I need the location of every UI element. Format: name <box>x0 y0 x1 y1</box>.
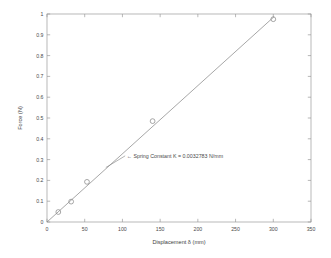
figure-container: 050100150200250300350 00.10.20.30.40.50.… <box>0 0 331 258</box>
spring-constant-chart: 050100150200250300350 00.10.20.30.40.50.… <box>0 0 331 258</box>
y-tick-label: 0.9 <box>36 32 43 38</box>
y-tick-label: 0.4 <box>36 136 43 142</box>
y-tick-label: 0 <box>41 219 44 225</box>
x-tick-label: 350 <box>307 226 316 232</box>
y-tick-label: 0.8 <box>36 53 43 59</box>
x-axis-title: Displacement δ (mm) <box>152 239 205 245</box>
y-axis-title: Force (N) <box>17 106 23 130</box>
y-tick-label: 0.2 <box>36 177 43 183</box>
x-tick-label: 50 <box>82 226 88 232</box>
x-tick-label: 100 <box>118 226 127 232</box>
y-tick-label: 0.5 <box>36 115 43 121</box>
x-tick-label: 300 <box>269 226 278 232</box>
x-tick-label: 0 <box>46 226 49 232</box>
spring-constant-annotation: ← Spring Constant K = 0.0032783 N/mm <box>127 153 224 159</box>
x-tick-label: 150 <box>156 226 165 232</box>
y-tick-label: 0.3 <box>36 157 43 163</box>
y-tick-label: 0.7 <box>36 73 43 79</box>
y-tick-label: 1 <box>41 11 44 17</box>
y-tick-label: 0.6 <box>36 94 43 100</box>
y-tick-label: 0.1 <box>36 198 43 204</box>
x-tick-label: 200 <box>194 226 203 232</box>
x-tick-label: 250 <box>231 226 240 232</box>
